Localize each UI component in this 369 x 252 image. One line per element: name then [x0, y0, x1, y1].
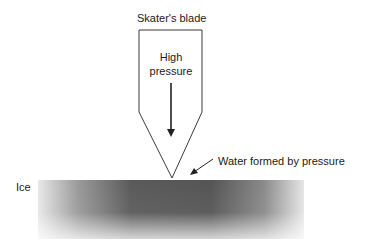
pressure-arrow-icon	[167, 83, 175, 137]
diagram-canvas	[0, 0, 369, 252]
ice-label: Ice	[16, 182, 31, 193]
blade-label: Skater's blade	[137, 13, 206, 24]
high-pressure-line1: High	[140, 50, 202, 64]
water-pointer-arrow-icon	[190, 159, 213, 175]
ice-block	[38, 180, 304, 239]
high-pressure-label: High pressure	[140, 50, 202, 78]
water-label: Water formed by pressure	[218, 156, 345, 167]
high-pressure-line2: pressure	[140, 64, 202, 78]
